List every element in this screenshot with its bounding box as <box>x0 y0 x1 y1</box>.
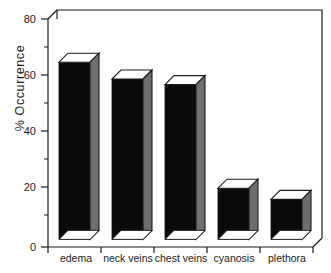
chart-canvas <box>0 0 331 273</box>
y-tick-label-20: 20 <box>14 181 36 193</box>
y-axis-title-text: % Occurrence <box>13 45 27 131</box>
bar-chart: 80 60 40 20 0 % Occurrence edema neck ve… <box>0 0 331 273</box>
bar-plethora <box>271 190 311 239</box>
x-tick-label-cyanosis: cyanosis <box>207 252 261 264</box>
bar-chest-veins <box>165 76 205 240</box>
y-axis-title: % Occurrence <box>10 28 30 148</box>
y-axis-major-ticks <box>41 19 48 247</box>
bar-neck-veins <box>112 70 152 239</box>
y-tick-label-80: 80 <box>14 13 36 25</box>
y-tick-label-0: 0 <box>14 241 36 253</box>
x-tick-label-chest-veins: chest veins <box>153 252 209 264</box>
bar-cyanosis <box>218 179 258 239</box>
x-tick-label-plethora: plethora <box>260 252 314 264</box>
bar-edema <box>59 53 99 239</box>
x-tick-label-edema: edema <box>50 252 102 264</box>
x-tick-label-neck-veins: neck veins <box>101 252 155 264</box>
